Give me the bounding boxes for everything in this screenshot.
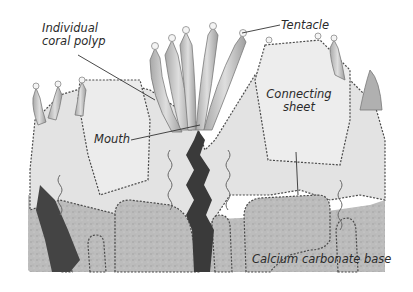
label-individual-polyp-line2: coral polyp xyxy=(42,35,106,48)
label-mouth: Mouth xyxy=(94,133,130,146)
label-connecting-sheet-line2: sheet xyxy=(259,101,339,114)
coral-polyp-diagram: Individual coral polyp Tentacle Connecti… xyxy=(0,0,413,292)
label-tentacle: Tentacle xyxy=(281,19,329,32)
label-connecting-sheet: Connecting sheet xyxy=(259,88,339,114)
label-calcium-carbonate-base: Calcium carbonate base xyxy=(252,253,391,266)
label-individual-polyp: Individual coral polyp xyxy=(42,22,106,48)
